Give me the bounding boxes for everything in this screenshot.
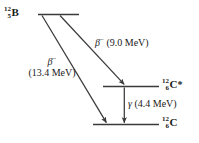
nuclide-az-b12: 12 5 <box>4 6 11 20</box>
level-label-c12-excited: 12 6 C* <box>162 78 182 92</box>
transition-label-gamma: γ (4.4 MeV) <box>128 98 177 110</box>
transition-label-beta-to-excited: β− (9.0 MeV) <box>95 37 149 49</box>
decay-scheme-figure: 12 5 B 12 6 C* 12 6 C β− (9.0 MeV) β− (1… <box>0 0 199 143</box>
atomic-number-c12-ground: 6 <box>166 123 170 130</box>
nuclide-az-c12-ground: 12 6 <box>162 116 169 130</box>
charge-superscript-beta-to-ground: − <box>53 55 57 63</box>
energy-value-gamma: (4.4 MeV) <box>134 98 176 109</box>
energy-value-beta-to-ground: (13.4 MeV) <box>14 68 90 79</box>
charge-superscript-beta-to-excited: − <box>100 36 104 44</box>
transition-label-beta-to-ground: β− (13.4 MeV) <box>14 56 90 78</box>
element-symbol-c12-ground: C <box>170 116 178 128</box>
level-label-c12-ground: 12 6 C <box>162 116 177 130</box>
energy-value-beta-to-excited: (9.0 MeV) <box>106 37 148 48</box>
element-symbol-b12: B <box>12 6 19 18</box>
atomic-number-b12: 5 <box>8 13 12 20</box>
nuclide-az-c12-excited: 12 6 <box>162 78 169 92</box>
excited-marker-c12-excited: * <box>177 79 182 90</box>
particle-symbol-gamma: γ <box>128 98 132 109</box>
level-label-b12: 12 5 B <box>4 6 19 20</box>
atomic-number-c12-excited: 6 <box>166 85 170 92</box>
